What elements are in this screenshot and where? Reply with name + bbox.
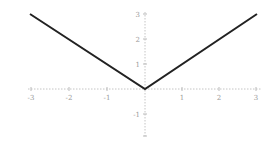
- y-tick-label: 2: [136, 36, 140, 44]
- y-tick-label: 1: [136, 61, 140, 69]
- x-tick-label: -3: [28, 94, 35, 102]
- y-tick-label: -1: [133, 111, 140, 119]
- x-tick-label: 3: [254, 94, 258, 102]
- abs-x-line: [30, 14, 257, 89]
- x-tick-label: -1: [104, 94, 111, 102]
- x-tick-label: 2: [217, 94, 221, 102]
- x-tick-labels: -3 -2 -1 1 2 3: [28, 94, 259, 102]
- y-tick-labels: 3 2 1 -1: [133, 11, 140, 119]
- plot: -3 -2 -1 1 2 3 3 2 1 -1: [0, 0, 267, 143]
- x-tick-label: -2: [66, 94, 73, 102]
- x-tick-label: 1: [180, 94, 184, 102]
- y-tick-label: 3: [136, 11, 140, 19]
